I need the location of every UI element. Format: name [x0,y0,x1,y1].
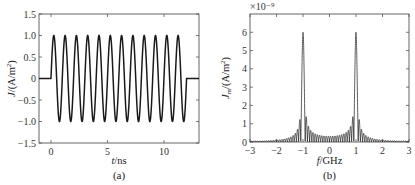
y-multiplier-label: ×10⁻⁹ [250,1,275,12]
panel-a-time-signal: 1.51.00.50−0.5−1.0−1.5 0510 J/(A/m2) t/n… [5,9,199,183]
svg-text:10: 10 [159,146,169,157]
svg-text:1.0: 1.0 [24,30,37,41]
y-axis-label-b: Jm/(A/m2) [219,56,233,99]
svg-text:4: 4 [242,63,247,74]
svg-text:1: 1 [242,118,247,129]
panel-b-spectrum: ×10⁻⁹ 0123456 −3−2−10123 Jm/(A/m2) f/GHz… [219,1,412,182]
panel-label-b: (b) [323,169,336,182]
panel-label-a: (a) [113,169,126,182]
y-axis-label-a: J/(A/m2) [5,60,18,97]
x-axis-ticks-b: −3−2−10123 [245,14,412,156]
svg-text:−1.0: −1.0 [18,116,36,127]
x-axis-label-a: t/ns [111,155,126,166]
svg-text:5: 5 [242,45,247,56]
svg-text:0.5: 0.5 [24,52,37,63]
svg-text:−3: −3 [245,145,256,156]
svg-text:2: 2 [242,100,247,111]
svg-text:2: 2 [380,145,385,156]
x-axis-ticks-a: 0510 [48,14,168,157]
svg-text:0: 0 [31,73,36,84]
svg-text:3: 3 [242,82,247,93]
svg-text:1: 1 [354,145,359,156]
svg-text:−0.5: −0.5 [18,95,36,106]
spectrum-curve [250,32,409,142]
x-axis-label-b: f/GHz [317,155,343,166]
svg-text:6: 6 [242,27,247,38]
signal-curve [39,36,199,122]
plot-frame-b [250,14,409,142]
svg-text:5: 5 [105,146,110,157]
svg-text:−1: −1 [298,145,309,156]
svg-text:3: 3 [407,145,412,156]
svg-text:−1.5: −1.5 [18,138,36,149]
svg-text:0: 0 [48,146,53,157]
svg-text:1.5: 1.5 [24,9,37,20]
figure: 1.51.00.50−0.5−1.0−1.5 0510 J/(A/m2) t/n… [0,0,415,185]
y-axis-ticks-b: 0123456 [242,27,409,148]
svg-text:−2: −2 [271,145,282,156]
